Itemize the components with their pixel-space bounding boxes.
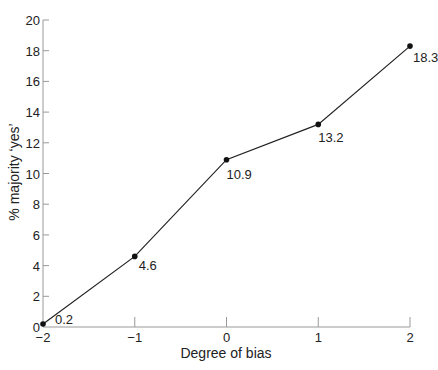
x-axis-title: Degree of bias: [180, 345, 271, 361]
x-tick-label: −1: [127, 330, 142, 345]
data-point-marker: [407, 43, 413, 49]
data-point-marker: [315, 122, 321, 128]
data-series: [40, 43, 413, 326]
y-tick-label: 2: [33, 289, 40, 304]
data-point-marker: [40, 321, 46, 327]
y-axis: 02468101214161820: [26, 13, 49, 335]
data-point-marker: [132, 254, 138, 260]
data-point-label: 0.2: [55, 312, 73, 327]
data-point-label: 4.6: [139, 258, 157, 273]
data-point-marker: [224, 157, 230, 163]
y-tick-label: 10: [26, 167, 40, 182]
y-tick-label: 12: [26, 136, 40, 151]
x-tick-label: 2: [406, 330, 413, 345]
y-tick-label: 8: [33, 197, 40, 212]
series-line: [43, 46, 410, 324]
y-axis-title: % majority ‘yes’: [6, 123, 22, 220]
x-tick-label: −2: [36, 330, 51, 345]
x-tick-label: 0: [223, 330, 230, 345]
y-tick-label: 4: [33, 259, 40, 274]
y-tick-label: 16: [26, 74, 40, 89]
data-labels: 0.24.610.913.218.3: [55, 50, 438, 327]
x-axis: −2−1012: [36, 317, 414, 345]
y-tick-label: 6: [33, 228, 40, 243]
line-chart: 02468101214161820 −2−1012 0.24.610.913.2…: [0, 0, 438, 370]
y-tick-label: 20: [26, 13, 40, 28]
y-tick-label: 18: [26, 44, 40, 59]
x-tick-label: 1: [315, 330, 322, 345]
data-point-label: 13.2: [318, 130, 343, 145]
data-point-label: 18.3: [413, 50, 438, 65]
y-tick-label: 14: [26, 105, 40, 120]
data-point-label: 10.9: [227, 167, 252, 182]
